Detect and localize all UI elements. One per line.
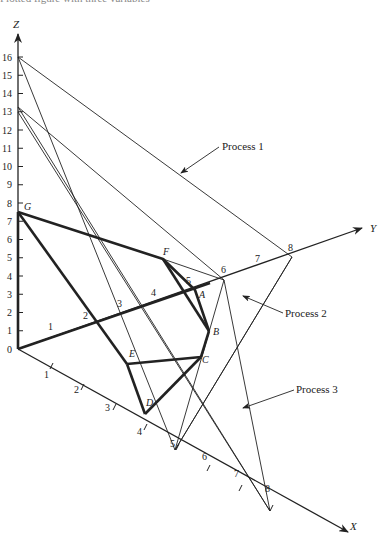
process1-z16-y8	[18, 57, 292, 257]
point-f: F	[162, 246, 170, 257]
svg-text:5: 5	[7, 252, 12, 263]
point-c: C	[202, 354, 209, 365]
svg-text:6: 6	[7, 234, 12, 245]
point-a: A	[198, 289, 206, 300]
feasible-region	[18, 212, 210, 414]
point-g: G	[24, 201, 31, 212]
x-ticks	[50, 363, 273, 511]
svg-text:4: 4	[151, 287, 156, 298]
point-d: D	[145, 397, 154, 408]
svg-text:7: 7	[7, 216, 12, 227]
svg-text:1: 1	[48, 321, 53, 332]
process1-z16-x5	[18, 57, 175, 450]
svg-text:2: 2	[7, 307, 12, 318]
svg-text:14: 14	[2, 88, 12, 99]
edge-e-d	[127, 364, 145, 414]
y-tick-labels: 1 2 3 4 5 6 7 8	[48, 242, 293, 332]
svg-text:11: 11	[2, 143, 12, 154]
3d-process-diagram: 0 1 2 3 4 5 6 7 8 9 10 11 12 13 14 15 16…	[0, 0, 386, 535]
svg-text:6: 6	[202, 451, 207, 462]
svg-text:0: 0	[7, 344, 12, 355]
svg-text:13: 13	[2, 106, 12, 117]
svg-text:10: 10	[2, 161, 12, 172]
svg-text:2: 2	[83, 310, 88, 321]
process2-label: Process 2	[285, 307, 327, 319]
svg-text:4: 4	[7, 271, 12, 282]
svg-text:2: 2	[74, 384, 79, 395]
process1-label: Process 1	[222, 140, 264, 152]
point-e: E	[128, 348, 135, 359]
y-axis-label: Y	[370, 222, 378, 234]
process2-arrow	[243, 296, 283, 313]
svg-text:12: 12	[2, 125, 12, 136]
svg-text:15: 15	[2, 70, 12, 81]
svg-text:16: 16	[2, 52, 12, 63]
x-tick-labels: 1 2 3 4 5 6 7 8	[44, 369, 270, 494]
svg-text:1: 1	[44, 369, 49, 380]
z-axis-label: Z	[13, 18, 20, 30]
edge-d-c	[145, 357, 201, 414]
svg-text:1: 1	[7, 325, 12, 336]
process1-arrow	[181, 147, 219, 173]
process3-arrow	[243, 390, 294, 408]
z-tick-labels: 0 1 2 3 4 5 6 7 8 9 10 11 12 13 14 15 16	[2, 52, 12, 355]
svg-text:3: 3	[105, 402, 110, 413]
svg-text:6: 6	[221, 264, 226, 275]
svg-text:8: 8	[288, 242, 293, 253]
svg-text:9: 9	[7, 179, 12, 190]
svg-text:7: 7	[255, 253, 260, 264]
process-planes	[18, 57, 292, 511]
svg-text:8: 8	[7, 198, 12, 209]
process3-z13-x8	[18, 112, 270, 511]
svg-text:3: 3	[7, 289, 12, 300]
process3-label: Process 3	[296, 383, 338, 395]
point-b: B	[213, 326, 219, 337]
svg-text:7: 7	[234, 468, 239, 479]
svg-text:4: 4	[137, 426, 142, 437]
edge-g-f-a-b	[18, 212, 209, 331]
edge-origin-y	[18, 283, 210, 349]
x-axis-label: X	[349, 520, 358, 532]
